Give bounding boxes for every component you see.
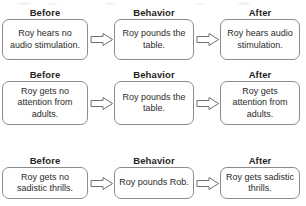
block-arrow-right-icon — [90, 32, 114, 47]
row-2-column-headers: Before Behavior After — [0, 68, 306, 81]
column-header-before: Before — [2, 6, 88, 19]
behavior-text: Roy pounds Rob. — [119, 177, 189, 188]
behavior-box: Roy pounds the table. — [114, 19, 194, 60]
before-text: Roy gets no attention from adults. — [7, 86, 83, 120]
row-3-boxes: Roy gets no sadistic thrills. Roy pounds… — [0, 167, 306, 199]
column-header-before: Before — [2, 68, 88, 81]
after-box: Roy gets sadistic thrills. — [220, 167, 300, 199]
before-box: Roy hears no audio stimulation. — [2, 19, 88, 60]
block-arrow-right-icon — [90, 96, 114, 111]
before-text: Roy hears no audio stimulation. — [7, 28, 83, 51]
behavior-text: Roy pounds the table. — [119, 28, 189, 51]
contingency-row-3: Before Behavior After Roy gets no sadist… — [0, 154, 306, 199]
row-1-boxes: Roy hears no audio stimulation. Roy poun… — [0, 19, 306, 60]
row-3-column-headers: Before Behavior After — [0, 154, 306, 167]
contingency-row-2: Before Behavior After Roy gets no attent… — [0, 68, 306, 125]
scan-speckle — [196, 3, 204, 5]
column-header-behavior: Behavior — [114, 154, 194, 167]
contingency-row-1: Before Behavior After Roy hears no audio… — [0, 6, 306, 60]
before-text: Roy gets no sadistic thrills. — [7, 172, 83, 195]
column-header-behavior: Behavior — [114, 6, 194, 19]
scan-speckle — [106, 2, 116, 5]
after-box: Roy gets attention from adults. — [220, 81, 300, 125]
after-text: Roy gets sadistic thrills. — [225, 172, 295, 195]
row-1-column-headers: Before Behavior After — [0, 6, 306, 19]
column-header-after: After — [220, 154, 300, 167]
column-header-before: Before — [2, 154, 88, 167]
row-2-boxes: Roy gets no attention from adults. Roy p… — [0, 81, 306, 125]
scan-speckle — [48, 3, 57, 5]
scan-speckle — [238, 2, 250, 5]
block-arrow-right-icon — [196, 176, 220, 191]
column-header-behavior: Behavior — [114, 68, 194, 81]
column-header-after: After — [220, 6, 300, 19]
block-arrow-right-icon — [196, 32, 220, 47]
after-text: Roy hears audio stimulation. — [225, 28, 295, 51]
after-text: Roy gets attention from adults. — [225, 86, 295, 120]
before-box: Roy gets no attention from adults. — [2, 81, 88, 125]
after-box: Roy hears audio stimulation. — [220, 19, 300, 60]
before-box: Roy gets no sadistic thrills. — [2, 167, 88, 199]
scan-speckle — [18, 2, 32, 5]
behavior-box: Roy pounds Rob. — [114, 167, 194, 199]
abc-contingency-diagram: Before Behavior After Roy hears no audio… — [0, 0, 306, 206]
block-arrow-right-icon — [196, 96, 220, 111]
column-header-after: After — [220, 68, 300, 81]
block-arrow-right-icon — [90, 176, 114, 191]
behavior-box: Roy pounds the table. — [114, 81, 194, 125]
behavior-text: Roy pounds the table. — [119, 92, 189, 115]
